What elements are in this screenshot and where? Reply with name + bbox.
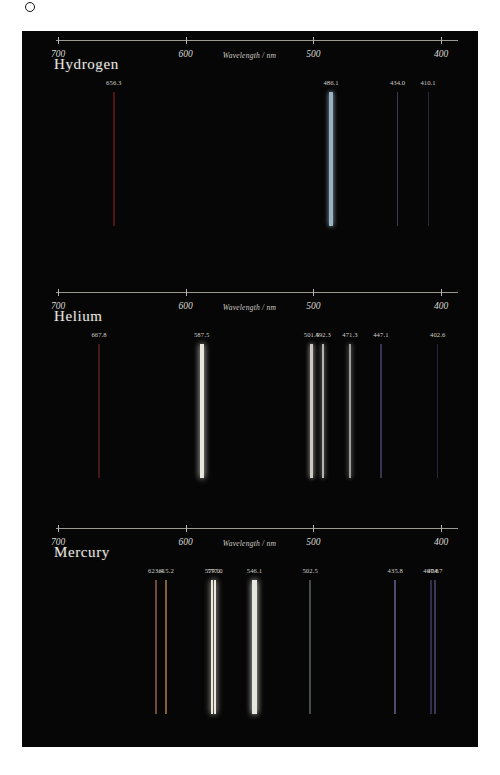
axis-tick-label: 700 — [51, 301, 65, 311]
axis-tick — [313, 525, 314, 532]
panel-mercury: Mercury 623.4615.2579.0577.0546.1502.543… — [22, 528, 478, 747]
axis-baseline — [56, 40, 458, 41]
spectral-line — [428, 92, 429, 226]
axis-title: Wavelength / nm — [223, 51, 276, 60]
panel-hydrogen: Hydrogen 656.3486.1434.0410.1 7006005004… — [22, 40, 478, 278]
spectral-line-label: 502.5 — [302, 567, 317, 574]
spectral-line — [165, 580, 167, 714]
axis-tick-label: 600 — [179, 301, 193, 311]
spectral-line — [113, 92, 115, 226]
spectral-line — [98, 344, 99, 478]
axis-tick-label: 700 — [51, 49, 65, 59]
spectral-line-label: 447.1 — [373, 331, 388, 338]
axis-tick — [441, 37, 442, 44]
spectral-line-label: 404.7 — [427, 567, 442, 574]
spectral-line — [155, 580, 157, 714]
panel-helium: Helium 667.8587.5501.5492.3471.3447.1402… — [22, 292, 478, 524]
spectral-line — [252, 580, 256, 714]
spectral-line — [397, 92, 398, 226]
axis-helium: 700600500400Wavelength / nm — [22, 292, 478, 332]
spectral-lines-hydrogen: 656.3486.1434.0410.1 — [22, 92, 478, 226]
spectral-line-label: 546.1 — [247, 567, 262, 574]
axis-hydrogen: 700600500400Wavelength / nm — [22, 40, 478, 80]
spectral-line — [349, 344, 351, 478]
page-background: Hydrogen 656.3486.1434.0410.1 7006005004… — [0, 0, 500, 775]
spectral-line-label: 587.5 — [194, 331, 209, 338]
axis-tick — [58, 37, 59, 44]
axis-tick-label: 500 — [306, 537, 320, 547]
axis-tick — [441, 289, 442, 296]
spectral-line — [434, 580, 436, 714]
spectral-line — [309, 580, 310, 714]
axis-tick-label: 400 — [434, 537, 448, 547]
spectral-line — [214, 580, 216, 714]
axis-tick — [313, 37, 314, 44]
axis-tick-label: 400 — [434, 301, 448, 311]
axis-tick — [186, 37, 187, 44]
axis-tick — [441, 525, 442, 532]
spectral-line-label: 410.1 — [420, 79, 435, 86]
axis-tick-label: 500 — [306, 301, 320, 311]
axis-baseline — [56, 528, 458, 529]
spectral-line — [200, 344, 204, 478]
spectral-line — [310, 344, 314, 478]
spectral-line-label: 486.1 — [323, 79, 338, 86]
spectral-line — [380, 344, 381, 478]
page-corner-mark — [25, 2, 35, 12]
spectral-line-label: 471.3 — [342, 331, 357, 338]
axis-baseline — [56, 292, 458, 293]
spectral-line-label: 615.2 — [159, 567, 174, 574]
axis-tick — [58, 289, 59, 296]
spectral-line-label: 656.3 — [106, 79, 121, 86]
axis-title: Wavelength / nm — [223, 303, 276, 312]
axis-tick-label: 700 — [51, 537, 65, 547]
spectral-line — [430, 580, 431, 714]
axis-tick — [313, 289, 314, 296]
axis-tick — [186, 525, 187, 532]
axis-tick-label: 600 — [179, 49, 193, 59]
axis-tick-label: 600 — [179, 537, 193, 547]
spectral-line-label: 492.3 — [315, 331, 330, 338]
spectra-figure: Hydrogen 656.3486.1434.0410.1 7006005004… — [22, 31, 478, 747]
spectral-lines-mercury: 623.4615.2579.0577.0546.1502.5435.8407.8… — [22, 580, 478, 714]
spectral-lines-helium: 667.8587.5501.5492.3471.3447.1402.6 — [22, 344, 478, 478]
spectral-line — [322, 344, 324, 478]
axis-tick — [186, 289, 187, 296]
spectral-line — [394, 580, 396, 714]
axis-mercury: 700600500400Wavelength / nm — [22, 528, 478, 568]
spectral-line-label: 577.0 — [207, 567, 222, 574]
spectral-line — [437, 344, 438, 478]
spectral-line-label: 434.0 — [390, 79, 405, 86]
axis-tick-label: 500 — [306, 49, 320, 59]
axis-tick — [58, 525, 59, 532]
spectral-line-label: 435.8 — [388, 567, 403, 574]
spectral-line-label: 402.6 — [430, 331, 445, 338]
axis-tick-label: 400 — [434, 49, 448, 59]
axis-title: Wavelength / nm — [223, 539, 276, 548]
spectral-line — [329, 92, 332, 226]
spectral-line-label: 667.8 — [91, 331, 106, 338]
